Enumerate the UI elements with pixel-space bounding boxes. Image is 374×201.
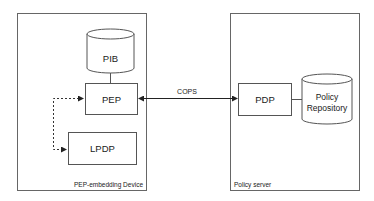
edge-label-cops: COPS [177,88,197,95]
node-label-pdp: PDP [255,94,275,105]
node-label-lpdp: LPDP [90,143,115,154]
container-label-device: PEP-embedding Device [74,181,143,189]
node-label-repo-line2: Repository [307,103,348,113]
node-pep[interactable]: PEP [86,84,138,115]
node-pib[interactable]: PIB [87,29,134,73]
diagram-canvas: PEP-embedding Device Policy server PIB P… [0,0,374,201]
node-label-pib: PIB [103,53,118,64]
node-label-pep: PEP [102,94,121,105]
node-policy-repository[interactable]: Policy Repository [302,74,352,124]
node-label-repo-line1: Policy [316,92,339,102]
container-label-server: Policy server [234,181,272,189]
node-pdp[interactable]: PDP [239,84,292,116]
node-lpdp[interactable]: LPDP [69,133,137,165]
